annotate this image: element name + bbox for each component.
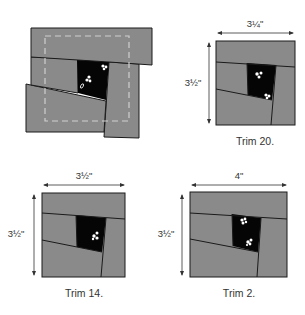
arrow-head-down-icon bbox=[32, 271, 36, 276]
arrow-head-right-icon bbox=[120, 183, 125, 187]
width-label: 3¼" bbox=[247, 18, 264, 29]
arrow-head-left-icon bbox=[191, 183, 196, 187]
arrow-head-down-icon bbox=[207, 119, 211, 124]
arrow-head-down-icon bbox=[180, 271, 184, 276]
center-square bbox=[247, 63, 276, 100]
height-label: 3½" bbox=[8, 228, 25, 239]
caption: Trim 2. bbox=[223, 287, 255, 299]
center-square bbox=[232, 214, 261, 252]
panel-trim20: 3¼" 3½" Trim 20. bbox=[185, 18, 295, 147]
panel-trim14: 3½" 3½" Trim 14. bbox=[8, 170, 125, 299]
arrow-head-left-icon bbox=[43, 183, 48, 187]
arrow-head-right-icon bbox=[282, 183, 287, 187]
width-label: 3½" bbox=[76, 170, 93, 181]
right-strip bbox=[104, 62, 139, 138]
caption: Trim 14. bbox=[65, 287, 103, 299]
untrimmed-block bbox=[26, 28, 152, 138]
arrow-head-right-icon bbox=[289, 31, 294, 35]
width-label: 4" bbox=[235, 170, 244, 181]
arrow-head-up-icon bbox=[180, 194, 184, 199]
panel-trim2: 4" 3½" Trim 2. bbox=[158, 170, 287, 299]
arrow-head-up-icon bbox=[207, 42, 211, 47]
center-square bbox=[76, 215, 106, 252]
height-label: 3½" bbox=[185, 77, 202, 88]
caption: Trim 20. bbox=[236, 135, 274, 147]
height-label: 3½" bbox=[158, 228, 175, 239]
arrow-head-left-icon bbox=[217, 31, 222, 35]
quilt-trim-diagram: 3¼" 3½" Trim 20. 3½" 3½" bbox=[0, 0, 305, 315]
arrow-head-up-icon bbox=[32, 194, 36, 199]
